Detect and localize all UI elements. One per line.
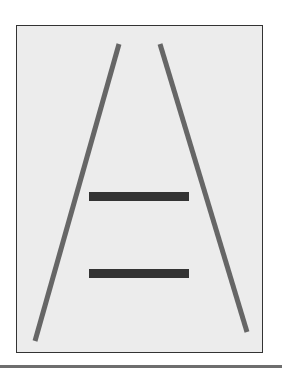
horizontal-bar-upper <box>89 192 189 201</box>
horizontal-bar-lower <box>89 269 189 278</box>
horizontal-rule <box>0 365 282 368</box>
converging-line-right <box>160 44 247 332</box>
ponzo-illusion-figure <box>0 0 282 372</box>
